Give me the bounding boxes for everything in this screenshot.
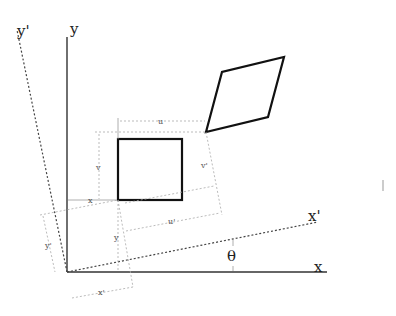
- y-prime-extension: [40, 200, 118, 215]
- rotation-diagram: y y' x x' θ u v x y u' v' x' y': [0, 0, 396, 316]
- parallelogram: [206, 57, 284, 132]
- y-prime-axis: [17, 30, 67, 272]
- y-axis-label: y: [69, 20, 79, 38]
- u-label: u: [158, 117, 163, 126]
- u-prime-label: u': [168, 217, 175, 226]
- x-prime-offset-label: x': [98, 288, 105, 297]
- x-prime-axis: [67, 222, 318, 272]
- x-axis-label: x: [314, 258, 323, 276]
- square: [118, 139, 182, 200]
- y-offset-label: y: [113, 233, 119, 242]
- y-prime-axis-label: y': [16, 22, 30, 40]
- v-prime-extension: [206, 132, 222, 215]
- v-label: v: [95, 163, 101, 172]
- theta-label: θ: [227, 247, 236, 265]
- x-prime-extension: [118, 200, 133, 287]
- v-prime-label: v': [200, 161, 208, 170]
- y-prime-offset-label: y': [44, 241, 52, 250]
- x-prime-axis-label: x': [308, 207, 321, 225]
- x-offset-label: x: [88, 196, 93, 205]
